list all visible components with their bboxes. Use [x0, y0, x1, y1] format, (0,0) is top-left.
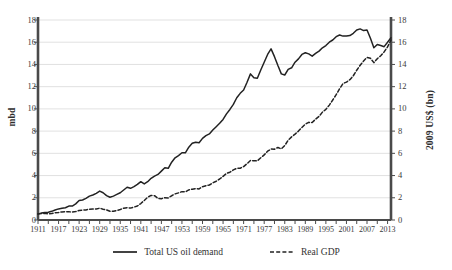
- chart-legend: Total US oil demand Real GDP: [0, 247, 452, 257]
- tick-marks: [34, 20, 395, 224]
- legend-label-total-us-oil-demand: Total US oil demand: [144, 247, 223, 257]
- legend-swatch-dashed: [269, 247, 295, 257]
- axis-spines: [38, 17, 391, 220]
- legend-item-real-gdp: Real GDP: [269, 247, 340, 257]
- data-series-layer: [38, 29, 391, 214]
- legend-swatch-solid: [112, 247, 138, 257]
- series-line-total-us-oil-demand: [38, 29, 391, 214]
- gridlines: [38, 20, 391, 198]
- plot-area: [0, 0, 452, 270]
- chart-figure: mbd 2009 US$ (bn) 024681012141618 024681…: [0, 0, 452, 270]
- legend-label-real-gdp: Real GDP: [301, 247, 340, 257]
- series-line-real-gdp: [38, 40, 391, 214]
- legend-item-total-us-oil-demand: Total US oil demand: [112, 247, 223, 257]
